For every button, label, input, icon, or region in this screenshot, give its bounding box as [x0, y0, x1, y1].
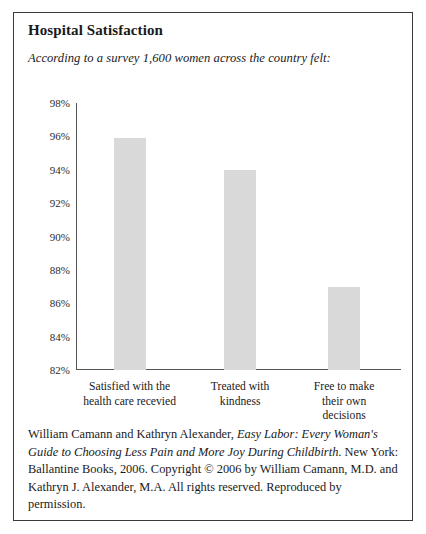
y-tick-label: 94% — [22, 164, 70, 176]
y-axis-ticks: 82%84%86%88%90%92%94%96%98% — [20, 103, 70, 370]
bar-2 — [224, 170, 256, 370]
y-tick-label: 92% — [22, 197, 70, 209]
x-axis-label-line: their own — [279, 395, 409, 410]
bar-3 — [328, 287, 360, 370]
figure-caption: William Camann and Kathryn Alexander, Ea… — [28, 426, 400, 514]
x-axis-label-3: Free to maketheir owndecisions — [279, 380, 409, 424]
y-tick-label: 84% — [22, 331, 70, 343]
x-axis-label-line: Free to make — [279, 380, 409, 395]
y-tick-label: 90% — [22, 231, 70, 243]
y-tick-label: 82% — [22, 364, 70, 376]
page-title: Hospital Satisfaction — [28, 22, 163, 39]
x-axis-label-line: decisions — [279, 409, 409, 424]
y-tick-label: 98% — [22, 97, 70, 109]
x-axis-labels: Satisfied with thehealth care receviedTr… — [76, 374, 401, 434]
figure-frame: Hospital Satisfaction According to a sur… — [13, 12, 413, 521]
y-tick-label: 96% — [22, 130, 70, 142]
figure-inner: Hospital Satisfaction According to a sur… — [14, 13, 412, 520]
plot-bars — [76, 103, 401, 370]
y-tick-label: 86% — [22, 297, 70, 309]
bar-1 — [114, 138, 146, 370]
figure-subtitle: According to a survey 1,600 women across… — [28, 51, 331, 66]
bar-chart: 82%84%86%88%90%92%94%96%98% Satisfied wi… — [14, 85, 411, 375]
caption-authors: William Camann and Kathryn Alexander, — [28, 427, 237, 441]
y-tick-label: 88% — [22, 264, 70, 276]
